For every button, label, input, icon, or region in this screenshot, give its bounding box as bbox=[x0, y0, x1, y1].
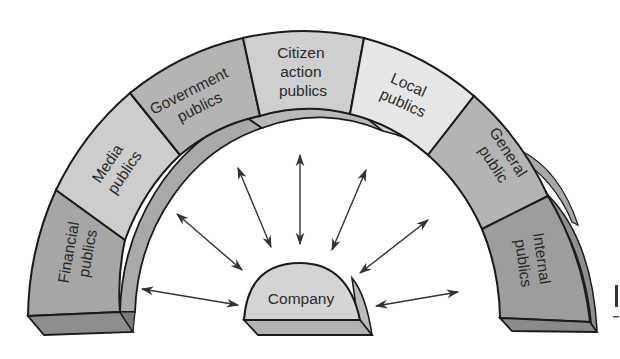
company-node: Company bbox=[244, 263, 372, 335]
label-citizen-1: Citizen bbox=[277, 44, 324, 61]
arrow-internal bbox=[376, 292, 458, 306]
label-citizen-2: action bbox=[280, 63, 321, 80]
publics-diagram: Financial publics Media publics Governme… bbox=[0, 0, 620, 359]
svg-text:Citizen action pub: Citizen action publics bbox=[277, 44, 329, 99]
cropped-caption-mark-2 bbox=[613, 316, 619, 318]
company-label: Company bbox=[268, 290, 335, 307]
arrow-government bbox=[238, 168, 271, 247]
label-citizen-3: publics bbox=[279, 82, 327, 99]
arrow-financial bbox=[142, 289, 238, 305]
arrow-local bbox=[332, 170, 366, 250]
cropped-caption-mark bbox=[615, 285, 618, 307]
arrow-media bbox=[177, 214, 242, 270]
arrow-general bbox=[360, 220, 428, 273]
left-base bbox=[28, 312, 133, 335]
